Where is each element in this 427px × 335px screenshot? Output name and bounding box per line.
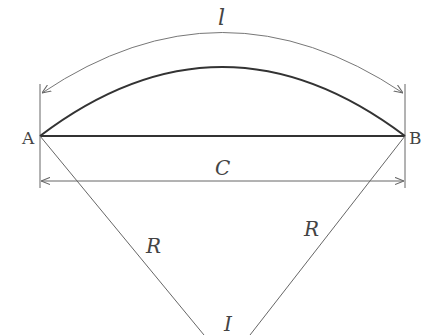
point-b-label: B <box>409 128 422 148</box>
arc-length-label: l <box>218 5 225 30</box>
radius-left <box>40 136 204 335</box>
circular-curve <box>40 67 405 136</box>
radius-left-label: R <box>145 234 161 258</box>
radius-right-label: R <box>303 217 319 241</box>
curve-diagram: l A B C R R I <box>0 0 427 335</box>
radius-right <box>250 136 405 335</box>
arc-length-dimension <box>42 33 403 94</box>
intersection-angle-label: I <box>223 312 233 335</box>
point-a-label: A <box>21 128 35 148</box>
chord-label: C <box>215 156 230 180</box>
